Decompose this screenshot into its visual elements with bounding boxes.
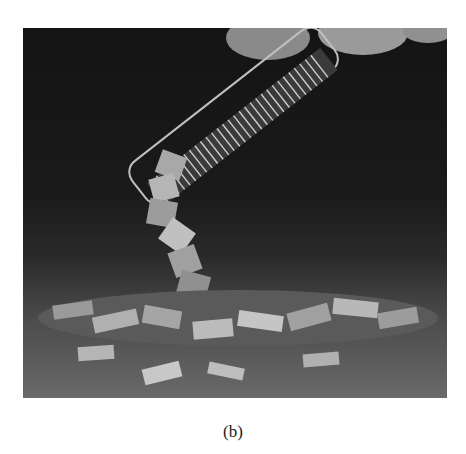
finger	[318, 28, 408, 55]
paper-pile	[38, 290, 438, 385]
photo-comb-paper	[23, 28, 447, 398]
finger	[403, 28, 447, 43]
figure-caption: (b)	[0, 422, 466, 442]
